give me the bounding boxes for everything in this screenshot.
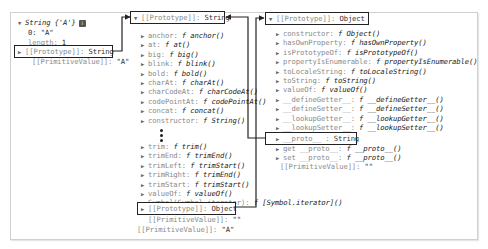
object-prototype-header[interactable]: ▼[[Prototype]]: Object bbox=[269, 14, 365, 24]
prototype-row-string[interactable]: ▶[[Prototype]]: String bbox=[18, 47, 114, 57]
string-prototype-header[interactable]: ▼[[Prototype]]: String bbox=[134, 13, 230, 23]
property-row: 0: "A" bbox=[28, 28, 53, 37]
string-object-header[interactable]: ▼String {'A'}i bbox=[18, 18, 86, 28]
expanded-triangle-icon[interactable]: ▼ bbox=[269, 15, 276, 24]
collapsed-triangle-icon: ▶ bbox=[141, 117, 148, 126]
method-row[interactable]: ▶constructor: f String() bbox=[141, 116, 245, 126]
expanded-triangle-icon[interactable]: ▼ bbox=[18, 19, 25, 28]
primitive-value-row: [[PrimitiveValue]]: "" bbox=[280, 162, 373, 171]
primitive-value-row: [[PrimitiveValue]]: "A" bbox=[32, 57, 129, 66]
object-preview: {'A'} bbox=[55, 18, 76, 27]
info-icon[interactable]: i bbox=[79, 20, 86, 27]
collapsed-triangle-icon[interactable]: ▶ bbox=[18, 48, 25, 57]
connector-string-proto bbox=[112, 17, 130, 51]
collapsed-triangle-icon[interactable]: ▶ bbox=[141, 205, 148, 214]
object-type: String bbox=[25, 18, 50, 27]
primitive-value-row: [[PrimitiveValue]]: "" bbox=[148, 215, 241, 224]
primitive-value-row: [[PrimitiveValue]]: "A" bbox=[137, 225, 234, 234]
proto-row-string[interactable]: ▶__proto__ : String bbox=[276, 134, 359, 144]
prototype-row-object[interactable]: ▶[[Prototype]]: Object bbox=[141, 204, 237, 214]
expanded-triangle-icon[interactable]: ▼ bbox=[134, 14, 141, 23]
